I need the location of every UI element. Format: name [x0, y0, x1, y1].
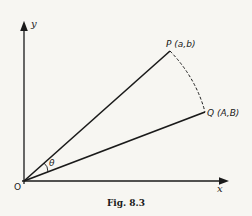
x-axis-label: x: [217, 183, 223, 194]
origin-label: O: [14, 182, 21, 192]
angle-theta-label: θ: [49, 158, 55, 168]
figure-caption: Fig. 8.3: [107, 198, 145, 208]
y-axis-label: y: [30, 18, 37, 29]
theta-arc: [44, 163, 48, 172]
rotation-arc: [170, 51, 205, 112]
point-q-label: Q (A,B): [207, 108, 239, 118]
line-oq: [24, 112, 205, 181]
point-p-label: P (a,b): [166, 39, 195, 49]
rotation-diagram: y x O P (a,b) Q (A,B) θ Fig. 8.3: [0, 0, 252, 216]
line-op: [24, 51, 170, 181]
